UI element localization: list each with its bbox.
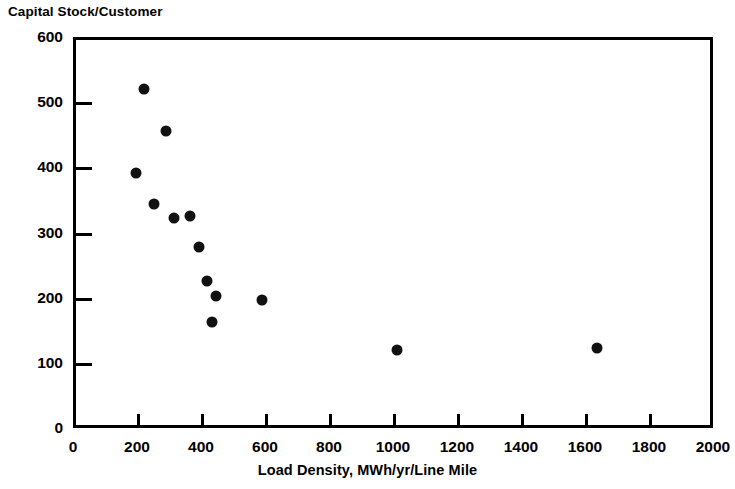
- data-point: [194, 242, 205, 253]
- data-point: [211, 290, 222, 301]
- data-point: [256, 295, 267, 306]
- scatter-plot-figure: Capital Stock/Customer 01002003004005006…: [0, 0, 735, 489]
- x-tick-label: 2000: [683, 438, 735, 456]
- x-tick-label: 1400: [491, 438, 551, 456]
- x-tick-label: 1200: [427, 438, 487, 456]
- data-point: [131, 167, 142, 178]
- x-tick-mark: [137, 414, 140, 428]
- y-tick-mark: [73, 167, 92, 170]
- data-point: [148, 198, 159, 209]
- y-tick-label: 200: [11, 289, 63, 307]
- x-tick-label: 400: [171, 438, 231, 456]
- y-tick-label: 300: [11, 224, 63, 242]
- y-tick-label: 0: [11, 419, 63, 437]
- x-tick-mark: [649, 414, 652, 428]
- y-tick-label: 100: [11, 354, 63, 372]
- x-axis-title: Load Density, MWh/yr/Line Mile: [0, 462, 735, 478]
- data-point: [185, 211, 196, 222]
- x-tick-label: 0: [43, 438, 103, 456]
- y-tick-mark: [73, 298, 92, 301]
- x-tick-mark: [329, 414, 332, 428]
- x-tick-label: 600: [235, 438, 295, 456]
- data-point: [202, 276, 213, 287]
- data-point: [206, 316, 217, 327]
- x-tick-mark: [393, 414, 396, 428]
- data-point: [392, 344, 403, 355]
- y-tick-mark: [73, 102, 92, 105]
- plot-area: [73, 37, 713, 428]
- data-point: [139, 84, 150, 95]
- data-point: [160, 125, 171, 136]
- x-tick-mark: [585, 414, 588, 428]
- y-tick-mark: [73, 233, 92, 236]
- y-tick-label: 500: [11, 93, 63, 111]
- x-tick-mark: [521, 414, 524, 428]
- x-tick-mark: [201, 414, 204, 428]
- x-tick-label: 1800: [619, 438, 679, 456]
- y-tick-label: 600: [11, 28, 63, 46]
- data-point: [592, 343, 603, 354]
- x-tick-mark: [457, 414, 460, 428]
- y-tick-mark: [73, 363, 92, 366]
- x-tick-label: 200: [107, 438, 167, 456]
- x-tick-label: 800: [299, 438, 359, 456]
- chart-title: Capital Stock/Customer: [8, 4, 162, 19]
- y-tick-label: 400: [11, 158, 63, 176]
- x-tick-mark: [265, 414, 268, 428]
- data-point: [169, 212, 180, 223]
- x-tick-label: 1600: [555, 438, 615, 456]
- x-tick-label: 1000: [363, 438, 423, 456]
